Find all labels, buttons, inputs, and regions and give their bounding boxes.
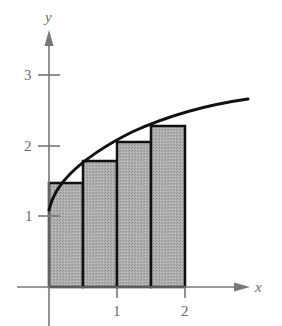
y-axis-arrow-icon <box>45 30 54 46</box>
y-axis-label: y <box>43 9 52 25</box>
rectangle-2 <box>83 161 117 287</box>
x-tick-label-1: 1 <box>113 303 121 319</box>
x-axis-arrow-icon <box>234 283 250 292</box>
y-tick-label-1: 1 <box>25 208 33 224</box>
y-tick-label-2: 2 <box>24 138 32 154</box>
rectangle-3 <box>117 142 151 287</box>
rectangles <box>49 126 185 287</box>
x-tick-label-2: 2 <box>181 303 189 319</box>
riemann-sum-diagram: y x 3 2 1 1 2 <box>0 0 282 326</box>
y-tick-label-3: 3 <box>24 67 32 83</box>
rectangle-4 <box>151 126 185 287</box>
x-axis-label: x <box>254 279 262 295</box>
